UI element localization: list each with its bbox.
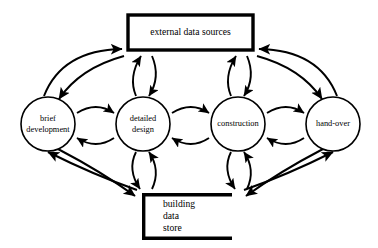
edge-detailed-design-to-external-data-sources bbox=[133, 56, 156, 96]
detailed-design-label-line-2: design bbox=[132, 125, 155, 134]
edge-hand-over-to-external-data-sources bbox=[257, 49, 337, 99]
edge-brief-development-to-external-data-sources bbox=[44, 49, 124, 99]
edge-hand-over-to-building-data-store bbox=[244, 149, 333, 196]
construction-label: construction bbox=[217, 119, 259, 128]
building-data-store-label-line-1: building bbox=[163, 198, 195, 209]
flow-diagram: external data sources brief development … bbox=[0, 0, 378, 248]
edge-detailed-design-to-construction bbox=[172, 107, 209, 144]
edge-construction-to-external-data-sources bbox=[228, 56, 251, 96]
edge-brief-development-to-detailed-design bbox=[77, 107, 114, 144]
edge-detailed-design-to-building-data-store bbox=[132, 152, 156, 189]
node-construction[interactable]: construction bbox=[211, 97, 265, 151]
edge-construction-to-building-data-store bbox=[227, 152, 251, 189]
node-building-data-store[interactable]: building data store bbox=[144, 195, 232, 239]
node-external-data-sources[interactable]: external data sources bbox=[128, 15, 253, 50]
node-hand-over[interactable]: hand-over bbox=[306, 97, 360, 151]
node-brief-development[interactable]: brief development bbox=[21, 97, 75, 151]
edge-construction-to-hand-over bbox=[267, 107, 304, 144]
diagram-canvas: external data sources brief development … bbox=[0, 0, 378, 248]
external-data-sources-label: external data sources bbox=[150, 26, 231, 37]
hand-over-label: hand-over bbox=[316, 119, 350, 128]
building-data-store-label-line-2: data bbox=[163, 210, 180, 221]
node-detailed-design[interactable]: detailed design bbox=[116, 97, 170, 151]
brief-development-label-line-2: development bbox=[26, 125, 70, 134]
building-data-store-label-line-3: store bbox=[163, 222, 182, 233]
detailed-design-label-line-1: detailed bbox=[130, 114, 157, 123]
brief-development-label-line-1: brief bbox=[40, 114, 56, 123]
edge-brief-development-to-building-data-store bbox=[48, 149, 137, 196]
